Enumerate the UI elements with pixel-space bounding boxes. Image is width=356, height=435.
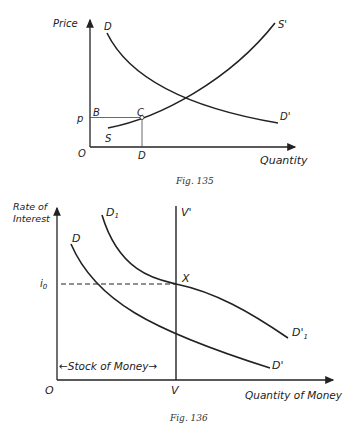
fig-136-caption: Fig. 136	[169, 413, 208, 423]
intersection-label: X	[181, 272, 190, 285]
demand-curve-d	[71, 244, 270, 368]
stock-of-money-label: ←Stock of Money→	[59, 360, 157, 372]
supply-bottom-label: V	[171, 384, 180, 397]
interest-axis-label-line2: Interest	[13, 213, 51, 224]
demand-end-label: D'	[280, 111, 290, 122]
figure-page: Price D S' D' p B C S O D Quantity Fig. …	[0, 0, 356, 435]
point-c-label: C	[137, 107, 144, 118]
demand-start-label: D	[72, 232, 80, 245]
demand-curve-d1	[102, 215, 288, 338]
quantity-axis-label: Quantity	[260, 154, 308, 167]
demand-end-label: D'	[272, 359, 284, 372]
point-b-label: B	[93, 107, 100, 118]
supply-top-label: V'	[181, 206, 192, 219]
demand1-start-label: D1	[106, 206, 119, 220]
supply-end-label: S'	[278, 19, 287, 30]
demand1-end-label: D'1	[292, 326, 308, 341]
supply-start-label: S	[105, 133, 112, 144]
demand-start-label: D	[104, 21, 112, 32]
origin-label: O	[45, 384, 54, 397]
fig-136: Rate of Interest D1 V' D i0 X D'1 D' ←St…	[13, 201, 343, 423]
fig-135: Price D S' D' p B C S O D Quantity Fig. …	[53, 18, 308, 186]
interest-rate-label: i0	[40, 278, 48, 291]
diagrams-canvas: Price D S' D' p B C S O D Quantity Fig. …	[0, 0, 356, 435]
demand-curve	[107, 33, 278, 123]
interest-axis-label-line1: Rate of	[13, 201, 49, 212]
fig-135-caption: Fig. 135	[175, 176, 214, 186]
supply-curve	[108, 23, 275, 128]
origin-label: O	[78, 148, 86, 159]
money-axis-label: Quantity of Money	[245, 389, 343, 401]
price-axis-label: Price	[53, 18, 78, 29]
price-level-label: p	[76, 113, 83, 124]
quantity-point-label: D	[138, 150, 146, 161]
